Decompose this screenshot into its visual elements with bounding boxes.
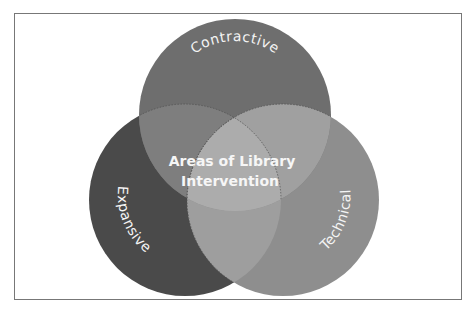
venn-diagram: Contractive Expansive Technical Areas of… [0, 0, 475, 310]
center-label-line1: Areas of Library [169, 153, 296, 169]
center-label-line2: Intervention [181, 173, 279, 189]
